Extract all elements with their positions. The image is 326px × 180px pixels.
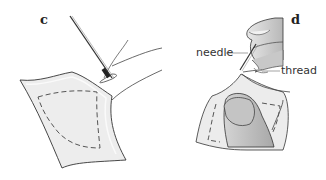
suture-illustration (0, 0, 326, 180)
panel-label-c: c (40, 12, 48, 27)
callout-thread: thread (281, 64, 317, 77)
callout-needle: needle (196, 46, 233, 59)
tissue-flap (20, 72, 126, 168)
panel-label-d: d (291, 12, 300, 27)
thread-loop-lower (112, 70, 162, 100)
panel-c-drawing (20, 16, 162, 168)
thread-loop-upper (112, 48, 162, 66)
panel-d-drawing (196, 18, 290, 150)
needle-icon (70, 16, 112, 78)
